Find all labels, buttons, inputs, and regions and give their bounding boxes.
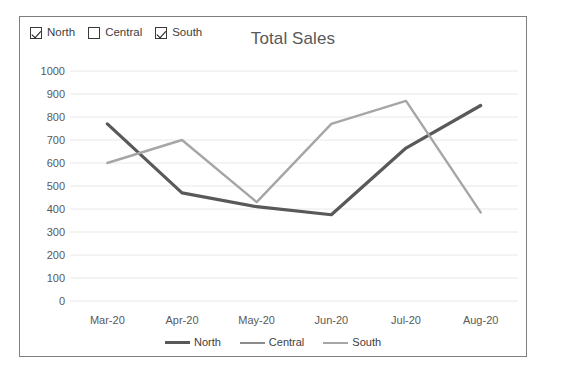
legend-swatch-icon xyxy=(240,342,265,344)
x-axis-tick-label: Mar-20 xyxy=(90,314,125,326)
x-axis-tick-label: Apr-20 xyxy=(165,314,198,326)
chart-legend: NorthCentralSouth xyxy=(20,337,526,348)
x-axis-labels: Mar-20Apr-20May-20Jun-20Jul-20Aug-20 xyxy=(20,17,526,356)
legend-item-central[interactable]: Central xyxy=(240,337,304,348)
screenshot-root: North Central South Total Sales 01002003… xyxy=(0,0,566,384)
plot-area: 01002003004005006007008009001000 Mar-20A… xyxy=(20,17,526,356)
legend-label: South xyxy=(352,337,381,348)
chart-panel: North Central South Total Sales 01002003… xyxy=(19,16,527,357)
legend-swatch-icon xyxy=(165,341,190,344)
x-axis-tick-label: Jun-20 xyxy=(315,314,349,326)
x-axis-tick-label: Aug-20 xyxy=(463,314,498,326)
x-axis-tick-label: Jul-20 xyxy=(391,314,421,326)
legend-item-south[interactable]: South xyxy=(323,337,381,348)
legend-label: Central xyxy=(269,337,304,348)
legend-label: North xyxy=(194,337,221,348)
legend-item-north[interactable]: North xyxy=(165,337,221,348)
legend-swatch-icon xyxy=(323,342,348,344)
x-axis-tick-label: May-20 xyxy=(238,314,275,326)
